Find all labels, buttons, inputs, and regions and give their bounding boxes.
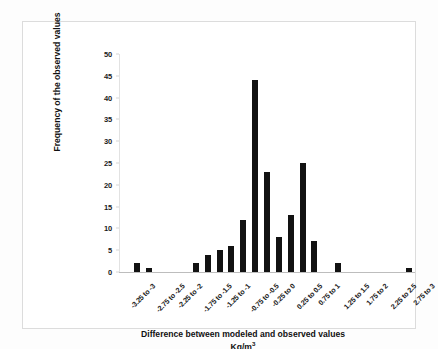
x-axis-units: Kg/m3 xyxy=(63,340,423,349)
chart-frame: Frequency of the observed values 0510152… xyxy=(22,21,416,329)
x-axis-line xyxy=(119,272,415,273)
bar-slot xyxy=(166,54,178,272)
x-tick-label: -2.75 to -2.5 xyxy=(143,274,155,292)
bar-slot xyxy=(356,54,368,272)
bar-slot xyxy=(131,54,143,272)
histogram-bar[interactable] xyxy=(146,268,152,272)
x-tick-label: 1.75 to 2 xyxy=(356,274,368,292)
bar-slot xyxy=(119,54,131,272)
x-tick-label: 0.75 to 1 xyxy=(308,274,320,292)
bar-slot xyxy=(297,54,309,272)
histogram-bar[interactable] xyxy=(335,263,341,272)
x-tick-label: 2.75 to 3 xyxy=(403,274,415,292)
bar-slot xyxy=(320,54,332,272)
histogram-bar[interactable] xyxy=(311,241,317,272)
histogram-bar[interactable] xyxy=(205,255,211,272)
bar-slot xyxy=(249,54,261,272)
bar-slot xyxy=(190,54,202,272)
bar-slot xyxy=(261,54,273,272)
histogram-bar[interactable] xyxy=(276,237,282,272)
bar-slot xyxy=(391,54,403,272)
bar-slot xyxy=(379,54,391,272)
x-tick-label: -0.25 to 0 xyxy=(261,274,273,292)
histogram-bar[interactable] xyxy=(288,215,294,272)
x-tick-label: -0.75 to -0.5 xyxy=(237,274,249,292)
x-tick-label: -1.25 to -1 xyxy=(214,274,226,292)
x-tick-label: -1.75 to -1.5 xyxy=(190,274,202,292)
bar-slot xyxy=(344,54,356,272)
bar-slot xyxy=(202,54,214,272)
bar-slot xyxy=(273,54,285,272)
x-axis-units-exponent: 3 xyxy=(252,340,255,347)
plot-area: 05101520253035404550 xyxy=(119,54,415,272)
x-tick-label: -3.25 to -3 xyxy=(119,274,131,292)
bar-slot xyxy=(237,54,249,272)
bar-slot xyxy=(143,54,155,272)
bar-slot xyxy=(155,54,167,272)
bar-slot xyxy=(178,54,190,272)
bar-slot xyxy=(226,54,238,272)
bar-slot xyxy=(403,54,415,272)
x-tick-label: 1.25 to 1.5 xyxy=(332,274,344,292)
histogram-bar[interactable] xyxy=(134,263,140,272)
histogram-bar[interactable] xyxy=(406,268,412,272)
histogram-bar[interactable] xyxy=(228,246,234,272)
histogram-bar[interactable] xyxy=(240,220,246,272)
histogram-bar[interactable] xyxy=(264,172,270,272)
y-axis-title: Frequency of the observed values xyxy=(52,0,62,182)
bar-slot xyxy=(368,54,380,272)
bar-slot xyxy=(214,54,226,272)
x-tick-label: -2.25 to -2 xyxy=(166,274,178,292)
x-tick-label: 2.25 to 2.5 xyxy=(379,274,391,292)
x-axis-units-text: Kg/m xyxy=(231,342,252,349)
histogram-bar[interactable] xyxy=(300,163,306,272)
bar-slot xyxy=(308,54,320,272)
x-tick-label: 0.25 to 0.5 xyxy=(285,274,297,292)
histogram-bar[interactable] xyxy=(193,263,199,272)
x-axis-title: Difference between modeled and observed … xyxy=(63,328,423,340)
bar-slot xyxy=(285,54,297,272)
histogram-bar[interactable] xyxy=(217,250,223,272)
histogram-bar[interactable] xyxy=(252,80,258,272)
bar-slot xyxy=(332,54,344,272)
histogram-figure: Frequency of the observed values 0510152… xyxy=(0,0,438,349)
